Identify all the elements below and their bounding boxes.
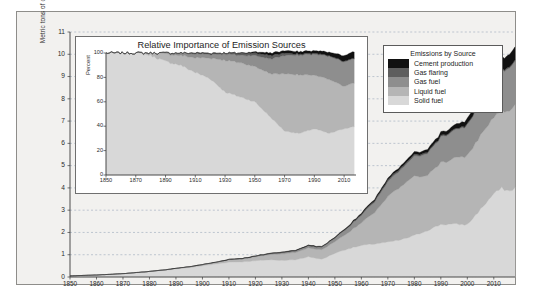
main-x-tick: 1890 — [161, 281, 191, 287]
main-y-axis-label: Metric tons of carbon (billions) — [39, 0, 46, 74]
legend-swatch-icon — [388, 59, 409, 68]
inset-x-tick: 1930 — [212, 178, 238, 184]
legend-box: Emissions by Source Cement productionGas… — [383, 45, 503, 113]
legend-title: Emissions by Source — [384, 50, 502, 57]
legend-swatch-icon — [388, 96, 409, 105]
legend-item[interactable]: Gas flaring — [388, 68, 502, 77]
inset-x-tick: 1910 — [182, 178, 208, 184]
main-y-tick: 5 — [39, 162, 65, 169]
inset-x-tick: 1850 — [93, 178, 119, 184]
inset-x-tick: 1870 — [123, 178, 149, 184]
inset-y-tick: 80 — [83, 75, 103, 81]
inset-plot-area — [106, 53, 356, 175]
inset-y-tick: 20 — [83, 148, 103, 154]
inset-y-tick: 100 — [83, 50, 103, 56]
legend-item-label: Liquid fuel — [414, 88, 446, 95]
inset-y-tick: 60 — [83, 99, 103, 105]
main-y-tick: 10 — [39, 51, 65, 58]
main-y-tick: 1 — [39, 251, 65, 258]
inset-x-tick: 1950 — [242, 178, 268, 184]
inset-x-tick: 2010 — [331, 178, 357, 184]
legend-item[interactable]: Cement production — [388, 59, 502, 68]
main-x-tick: 2010 — [479, 281, 509, 287]
main-x-tick: 1970 — [373, 281, 403, 287]
inset-y-axis-label: Percent — [85, 35, 91, 95]
main-y-tick: 7 — [39, 118, 65, 125]
main-y-tick: 2 — [39, 229, 65, 236]
main-y-tick: 8 — [39, 96, 65, 103]
main-y-tick: 11 — [39, 29, 65, 36]
inset-x-tick: 1990 — [301, 178, 327, 184]
legend-swatch-icon — [388, 87, 409, 96]
main-y-tick: 4 — [39, 185, 65, 192]
legend-item[interactable]: Gas fuel — [388, 77, 502, 86]
inset-x-tick: 1890 — [153, 178, 179, 184]
inset-title: Relative Importance of Emission Sources — [76, 40, 367, 50]
legend-item-label: Cement production — [414, 60, 473, 67]
inset-y-tick: 40 — [83, 123, 103, 129]
inset-chart-svg — [106, 53, 356, 175]
legend-swatch-icon — [388, 77, 409, 86]
main-y-tick: 0 — [39, 274, 65, 281]
figure-frame: Metric tons of carbon (billions) 0123456… — [16, 11, 516, 285]
main-y-tick: 3 — [39, 207, 65, 214]
legend-item-label: Solid fuel — [414, 97, 443, 104]
main-y-tick: 9 — [39, 73, 65, 80]
inset-chart: Relative Importance of Emission Sources … — [75, 36, 368, 194]
legend-item-label: Gas fuel — [414, 78, 440, 85]
legend-swatch-icon — [388, 68, 409, 77]
legend-item[interactable]: Solid fuel — [388, 96, 502, 105]
legend-items: Cement productionGas flaringGas fuelLiqu… — [384, 59, 502, 106]
legend-item[interactable]: Liquid fuel — [388, 87, 502, 96]
main-x-tick: 1930 — [267, 281, 297, 287]
inset-x-tick: 1970 — [272, 178, 298, 184]
main-y-tick: 6 — [39, 140, 65, 147]
legend-item-label: Gas flaring — [414, 69, 448, 76]
